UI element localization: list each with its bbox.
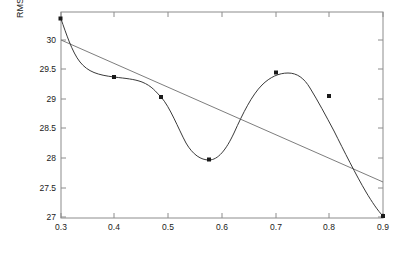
x-tick-label: 0.8 [312, 222, 346, 232]
y-axis-label: RMSE [15, 0, 25, 25]
data-point-marker [112, 75, 116, 79]
y-tick-label: 29.5 [22, 64, 56, 74]
data-point-marker [59, 17, 63, 21]
x-tick-label: 0.6 [205, 222, 239, 232]
data-point-marker [159, 95, 163, 99]
y-tick-label: 29 [22, 94, 56, 104]
data-point-marker [327, 94, 331, 98]
y-tick-label: 27 [22, 212, 56, 222]
x-tick-label: 0.7 [259, 222, 293, 232]
x-tick-label: 0.4 [97, 222, 131, 232]
x-tick-label: 0.5 [151, 222, 185, 232]
data-point-marker [274, 71, 278, 75]
x-tick-label: 0.3 [44, 222, 78, 232]
x-tick-label: 0.9 [366, 222, 400, 232]
y-tick-label: 27.5 [22, 183, 56, 193]
rmse-sampling-ratio-chart [0, 0, 402, 257]
data-point-marker [207, 158, 211, 162]
y-tick-label: 28 [22, 153, 56, 163]
y-tick-label: 28.5 [22, 123, 56, 133]
y-tick-label: 30 [22, 35, 56, 45]
data-point-marker [381, 214, 385, 218]
